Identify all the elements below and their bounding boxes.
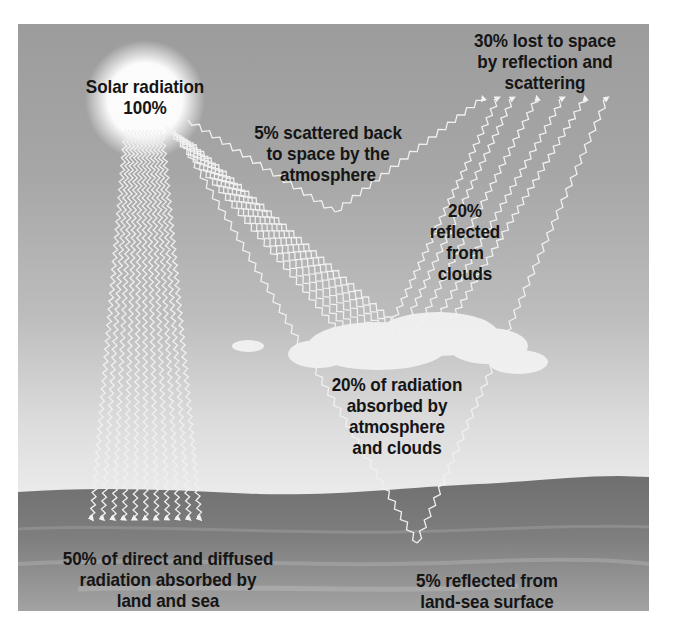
absorbed-atmosphere-label: 20% of radiation absorbed by atmosphere …: [312, 374, 483, 458]
scattered-back-label: 5% scattered back to space by the atmosp…: [238, 122, 418, 185]
direct-radiation-rays: [90, 130, 202, 519]
wavy-arrow-icon: [142, 130, 148, 519]
solar-radiation-label: Solar radiation 100%: [78, 76, 213, 118]
reflected-from-clouds-label: 20% reflected from clouds: [416, 200, 515, 284]
absorbed-land-sea-label: 50% of direct and diffused radiation abs…: [42, 548, 294, 611]
radiation-diagram: Solar radiation 100% 5% scattered back t…: [18, 24, 649, 611]
surface-reflected-label: 5% reflected from land-sea surface: [402, 570, 573, 611]
lost-to-space-label: 30% lost to space by reflection and scat…: [451, 30, 640, 93]
wavy-arrow-icon: [146, 130, 159, 519]
